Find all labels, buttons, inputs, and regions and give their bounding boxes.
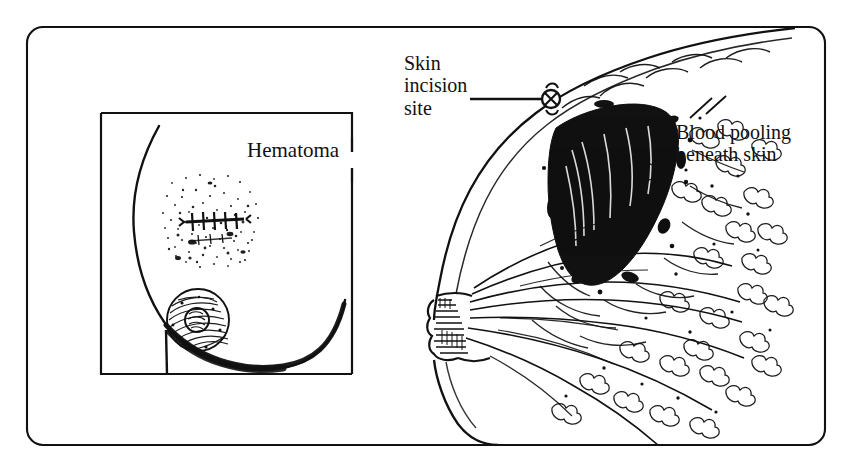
blood-pooling-label: Blood pooling beneath skin [676, 121, 791, 166]
skin-incision-site-label: Skin incision site [404, 52, 467, 119]
illustration-stage: Hematoma Skin incision site Blood poolin… [0, 0, 856, 474]
hematoma-label: Hematoma [247, 139, 339, 163]
